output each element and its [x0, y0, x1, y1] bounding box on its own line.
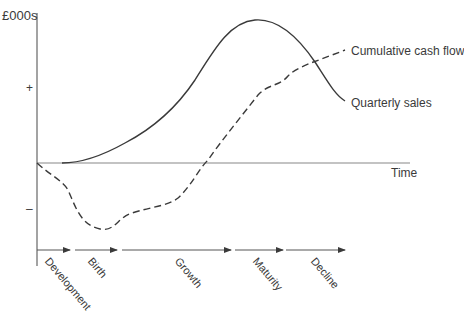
y-axis-label: £000s [2, 8, 37, 23]
x-axis-label: Time [391, 166, 417, 180]
y-minus-label: – [26, 202, 33, 216]
cumulative-cash-flow-line [37, 50, 345, 229]
legend-cumulative-cash-flow: Cumulative cash flow [351, 44, 464, 58]
legend-quarterly-sales: Quarterly sales [351, 96, 432, 110]
y-plus-label: + [26, 81, 33, 95]
quarterly-sales-line [62, 20, 345, 163]
